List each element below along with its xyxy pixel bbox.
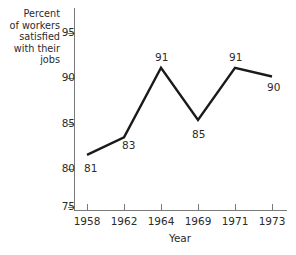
data-point-label-1969: 85 xyxy=(192,129,205,140)
data-point-label-1964: 91 xyxy=(155,52,168,63)
x-axis-title: Year xyxy=(140,232,220,244)
data-point-label-1973: 90 xyxy=(267,82,280,93)
data-point-label-1971: 91 xyxy=(229,52,242,63)
data-point-label-1962: 83 xyxy=(122,140,135,151)
data-point-label-1958: 81 xyxy=(84,163,97,174)
data-line-plot xyxy=(0,0,296,255)
series-line-satisfaction xyxy=(87,68,272,155)
chart-figure: Percent of workers satisfied with their … xyxy=(0,0,296,255)
